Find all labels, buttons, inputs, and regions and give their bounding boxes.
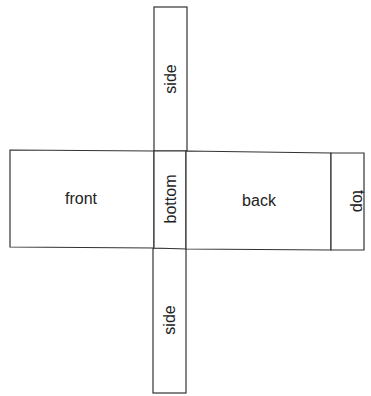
label-front: front <box>65 190 98 207</box>
panel-bottom: bottom <box>154 151 186 249</box>
label-top: top <box>350 190 367 212</box>
box-net-diagram: side side front bottom back top <box>0 0 371 396</box>
label-bottom: bottom <box>162 175 179 224</box>
label-side-top: side <box>162 64 179 93</box>
panel-back: back <box>186 151 331 250</box>
panel-side-bottom: side <box>153 248 186 393</box>
label-side-bottom: side <box>161 305 178 334</box>
label-back: back <box>242 192 277 209</box>
panel-top: top <box>331 153 367 250</box>
panel-front: front <box>10 150 154 248</box>
panel-side-top: side <box>154 7 187 151</box>
